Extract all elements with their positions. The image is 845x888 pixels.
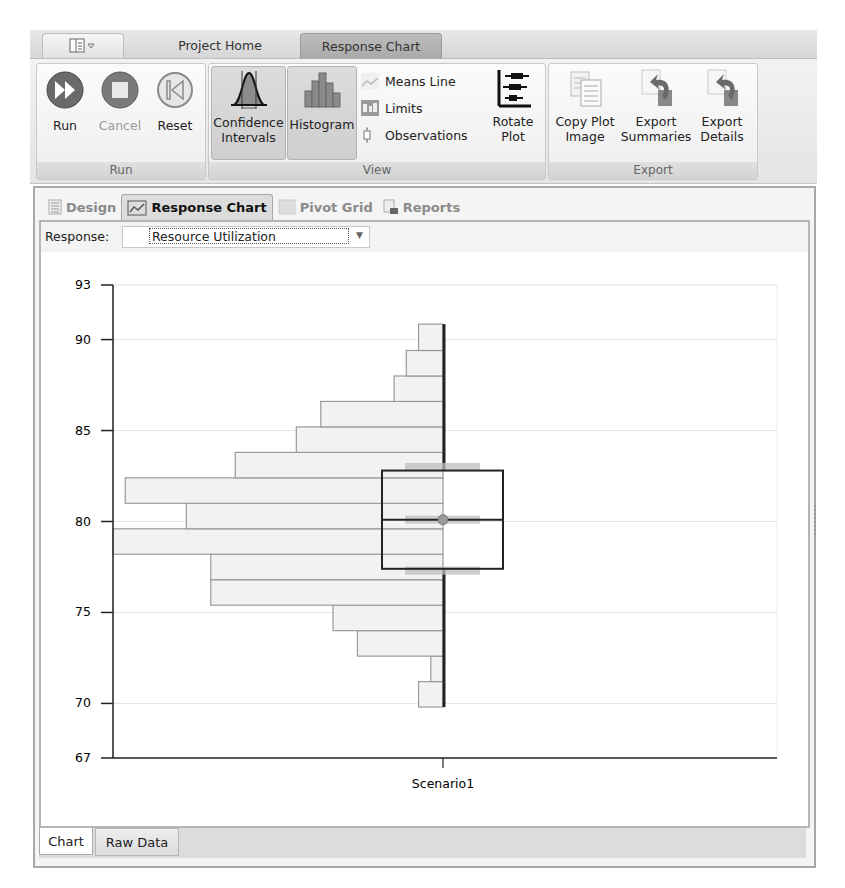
- export-group: Copy Plot Image Export Summaries Expor: [548, 63, 758, 180]
- rotate-plot-button[interactable]: Rotate Plot: [487, 66, 539, 158]
- histogram-button[interactable]: Histogram: [287, 66, 357, 160]
- cancel-button[interactable]: Cancel: [93, 66, 147, 158]
- mean-marker: [438, 515, 448, 525]
- response-label: Response:: [45, 229, 109, 244]
- rotate-plot-label: Rotate Plot: [493, 114, 534, 144]
- means-line-icon: [361, 73, 379, 89]
- view-tabs: Chart Raw Data: [39, 828, 806, 858]
- confidence-intervals-button[interactable]: Confidence Intervals: [211, 66, 286, 160]
- tab-response-chart-doc[interactable]: Response Chart: [121, 194, 272, 220]
- rewind-start-icon: [155, 70, 195, 110]
- limits-label: Limits: [385, 101, 423, 116]
- y-tick-label: 67: [75, 750, 91, 765]
- means-line-button[interactable]: Means Line: [361, 70, 456, 92]
- rotate-plot-icon: [493, 68, 533, 110]
- tab-response-chart[interactable]: Response Chart: [300, 33, 442, 59]
- report-icon: [383, 199, 399, 215]
- observations-icon: [361, 126, 379, 144]
- run-group: Run Cancel Reset Run: [36, 63, 206, 180]
- tab-label: Response Chart: [322, 39, 420, 54]
- histogram-bar: [394, 376, 443, 401]
- tab-pivot-grid[interactable]: Pivot Grid: [273, 194, 378, 220]
- tab-design[interactable]: Design: [43, 194, 121, 220]
- response-dropdown[interactable]: Resource Utilization ▼: [122, 226, 370, 248]
- export-arrow-icon: [636, 68, 676, 110]
- reset-button[interactable]: Reset: [149, 66, 201, 158]
- tab-project-home[interactable]: Project Home: [145, 33, 295, 58]
- layout-dropdown-icon: [68, 38, 98, 54]
- document-tabs: Design Response Chart Pivot Grid Reports: [43, 194, 465, 220]
- y-tick-label: 70: [75, 695, 91, 710]
- design-list-icon: [48, 199, 62, 215]
- response-selected-value: Resource Utilization: [149, 228, 349, 244]
- chart-icon: [127, 200, 147, 216]
- quick-access-button[interactable]: [42, 33, 124, 58]
- bell-curve-icon: [229, 69, 269, 111]
- observations-button[interactable]: Observations: [361, 124, 468, 146]
- export-summaries-button[interactable]: Export Summaries: [621, 66, 691, 158]
- chevron-down-icon: ▼: [356, 230, 363, 240]
- histogram-bar: [211, 580, 443, 605]
- limits-icon: [361, 100, 379, 116]
- y-tick-label: 80: [75, 514, 91, 529]
- x-category-label: Scenario1: [412, 776, 474, 791]
- means-line-label: Means Line: [385, 74, 456, 89]
- run-button[interactable]: Run: [39, 66, 91, 158]
- confidence-intervals-label: Confidence Intervals: [213, 115, 283, 145]
- tab-chart[interactable]: Chart: [39, 828, 93, 855]
- histogram-bar: [406, 350, 443, 375]
- histogram-icon: [301, 71, 343, 111]
- limits-button[interactable]: Limits: [361, 97, 423, 119]
- copy-plot-image-button[interactable]: Copy Plot Image: [551, 66, 619, 158]
- copy-documents-icon: [565, 68, 605, 110]
- histogram-bar: [296, 427, 443, 452]
- application-tab-strip: Project Home Response Chart: [30, 30, 817, 59]
- view-group-label: View: [209, 162, 545, 179]
- y-tick-label: 75: [75, 604, 91, 619]
- tab-raw-data[interactable]: Raw Data: [95, 828, 179, 856]
- observations-label: Observations: [385, 128, 468, 143]
- histogram-label: Histogram: [290, 117, 355, 132]
- tab-reports[interactable]: Reports: [378, 194, 465, 220]
- histogram-bar: [431, 656, 443, 681]
- export-details-button[interactable]: Export Details: [693, 66, 751, 158]
- fast-forward-icon: [45, 70, 85, 110]
- grid-icon: [278, 199, 296, 215]
- copy-plot-image-label: Copy Plot Image: [555, 114, 614, 144]
- y-tick-label: 90: [75, 332, 91, 347]
- ribbon: Run Cancel Reset Run: [30, 59, 817, 184]
- reset-label: Reset: [158, 118, 193, 133]
- histogram-bar: [419, 682, 443, 707]
- tab-label: Project Home: [178, 38, 262, 53]
- histogram-bar: [113, 529, 443, 554]
- histogram-bar: [125, 478, 443, 503]
- export-arrow-icon: [702, 68, 742, 110]
- y-tick-label: 93: [75, 277, 91, 292]
- histogram-bar: [321, 401, 443, 426]
- export-summaries-label: Export Summaries: [621, 114, 692, 144]
- view-group: Confidence Intervals Histogram Means Lin…: [208, 63, 546, 180]
- run-label: Run: [53, 118, 77, 133]
- histogram-bar: [419, 324, 443, 350]
- response-toolbar: Response: Resource Utilization ▼: [41, 222, 808, 252]
- export-group-label: Export: [549, 162, 757, 179]
- histogram-bar: [333, 605, 443, 630]
- histogram-bar: [186, 503, 443, 528]
- run-group-label: Run: [37, 162, 205, 179]
- export-details-label: Export Details: [700, 114, 743, 144]
- cancel-label: Cancel: [99, 118, 141, 133]
- splitter-grip[interactable]: [814, 505, 819, 535]
- stop-icon: [100, 70, 140, 110]
- histogram-bar: [357, 631, 443, 656]
- y-tick-label: 85: [75, 423, 91, 438]
